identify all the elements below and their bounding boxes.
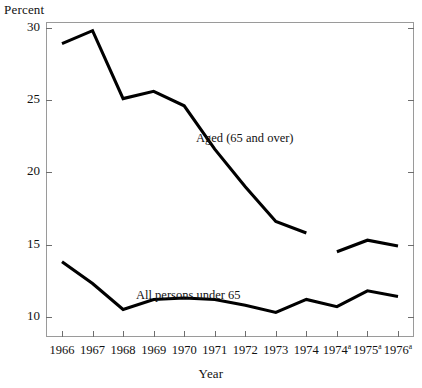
x-axis-tick-label: 1966 (50, 343, 75, 358)
x-axis-tick-mark (306, 331, 307, 337)
x-axis-tick-mark (276, 331, 277, 337)
chart-container: Percent 3025201510 196619671968196919701… (0, 0, 422, 388)
y-axis-tick-mark-right (408, 245, 414, 246)
series-label-under-65: All persons under 65 (136, 288, 241, 303)
y-axis-tick-mark-right (408, 317, 414, 318)
x-axis-tick-label: 1974 (294, 343, 319, 358)
x-axis-tick-mark (62, 331, 63, 337)
x-axis-tick-label: 1967 (80, 343, 105, 358)
x-axis-tick-mark (245, 331, 246, 337)
x-axis-tick-label: 1972 (233, 343, 258, 358)
y-axis-tick-label: 30 (10, 19, 40, 35)
x-axis-tick-mark (398, 331, 399, 337)
y-axis-title: Percent (4, 2, 44, 18)
x-axis-tick-label: 1971 (202, 343, 227, 358)
y-axis-tick-mark (46, 28, 52, 29)
y-axis-tick-label: 10 (10, 308, 40, 324)
series-label-aged: Aged (65 and over) (196, 131, 294, 146)
x-axis-tick-label: 1975a (353, 343, 381, 358)
y-axis-tick-label: 20 (10, 163, 40, 179)
y-axis-tick-mark-right (408, 28, 414, 29)
series-line (337, 240, 398, 252)
y-axis-tick-mark (46, 245, 52, 246)
x-axis-tick-label: 1970 (172, 343, 197, 358)
x-axis-tick-footnote-marker: a (409, 342, 412, 351)
y-axis-tick-mark (46, 172, 52, 173)
x-axis-tick-label: 1974a (323, 343, 351, 358)
y-axis-tick-mark-right (408, 100, 414, 101)
x-axis-tick-mark (337, 331, 338, 337)
y-axis-tick-mark (46, 317, 52, 318)
x-axis-tick-label: 1969 (141, 343, 166, 358)
x-axis-tick-label: 1976a (384, 343, 412, 358)
x-axis-tick-mark (154, 331, 155, 337)
y-axis-tick-label: 25 (10, 91, 40, 107)
x-axis-tick-footnote-marker: a (348, 342, 351, 351)
x-axis-title: Year (0, 366, 422, 382)
x-axis-tick-label: 1973 (263, 343, 288, 358)
y-axis-tick-label: 15 (10, 236, 40, 252)
x-axis-tick-label: 1968 (111, 343, 136, 358)
x-axis-tick-mark (93, 331, 94, 337)
x-axis-tick-footnote-marker: a (378, 342, 381, 351)
x-axis-tick-mark (367, 331, 368, 337)
x-axis-tick-mark (184, 331, 185, 337)
y-axis-tick-mark (46, 100, 52, 101)
y-axis-tick-mark-right (408, 172, 414, 173)
x-axis-tick-mark (215, 331, 216, 337)
x-axis-tick-mark (123, 331, 124, 337)
